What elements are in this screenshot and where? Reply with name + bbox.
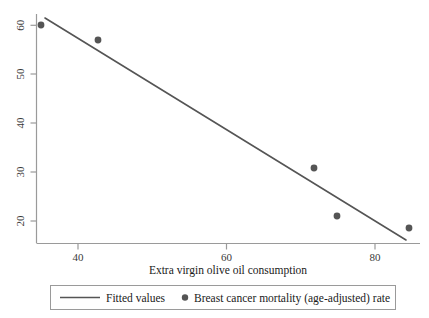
y-tick-label: 50: [14, 68, 26, 80]
y-tick-label: 60: [14, 19, 26, 31]
y-axis-tick-labels: 60 50 40 30 20: [14, 19, 26, 226]
x-tick-label: 80: [370, 251, 382, 263]
x-axis-ticks: [78, 244, 375, 250]
y-tick-label: 20: [14, 215, 26, 227]
data-point: [311, 165, 318, 172]
legend-label-mortality-rate: Breast cancer mortality (age-adjusted) r…: [194, 292, 390, 305]
x-tick-label: 40: [73, 251, 85, 263]
data-point: [38, 22, 45, 29]
fitted-values-line: [45, 18, 406, 240]
x-axis-title: Extra virgin olive oil consumption: [149, 264, 307, 277]
data-points-group: [38, 22, 413, 232]
scatter-plot: 60 50 40 30 20 40 60 80 Extr: [0, 0, 429, 318]
y-axis-ticks: [31, 25, 37, 221]
y-tick-label: 40: [14, 117, 26, 129]
y-tick-label: 30: [14, 166, 26, 178]
chart-legend: Fitted values Breast cancer mortality (a…: [51, 286, 396, 310]
legend-label-fitted-values: Fitted values: [106, 292, 166, 304]
chart-container: 60 50 40 30 20 40 60 80 Extr: [0, 0, 429, 318]
data-point: [334, 213, 341, 220]
data-point: [95, 37, 102, 44]
x-axis-tick-labels: 40 60 80: [73, 251, 382, 263]
data-point: [406, 225, 413, 232]
x-tick-label: 60: [221, 251, 233, 263]
legend-dot-swatch: [182, 294, 188, 300]
